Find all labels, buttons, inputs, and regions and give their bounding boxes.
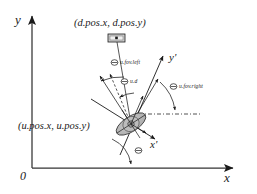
angle-label-u-fov-right: u.fov.right [179,84,203,90]
y-axis-label: y [15,13,21,26]
theta-glyph-heading [135,148,142,154]
theta-glyph-u-fov-right [170,84,177,90]
figure-canvas: y x 0 (d.pos.x, d.pos.y) (u.pos.x, u.pos… [0,0,257,194]
x-prime-label: x' [150,139,157,150]
arc-u-d [120,93,134,97]
theta-glyphs [111,60,177,154]
device-position-label: (d.pos.x, d.pos.y) [74,18,146,29]
angle-label-u-d: u.d [130,79,137,85]
x-axis-label: x [224,171,230,184]
device-rect-icon [108,34,125,42]
y-prime-label: y' [169,52,176,63]
world-axes [32,16,233,168]
theta-glyph-u-d [121,79,128,85]
origin-label: 0 [20,170,26,182]
geometry-diagram [0,0,257,194]
angle-label-u-fov-left: u.fov.left [120,60,140,66]
user-position-label: (u.pos.x, u.pos.y) [18,121,90,132]
theta-glyph-u-fov-left [111,60,118,66]
